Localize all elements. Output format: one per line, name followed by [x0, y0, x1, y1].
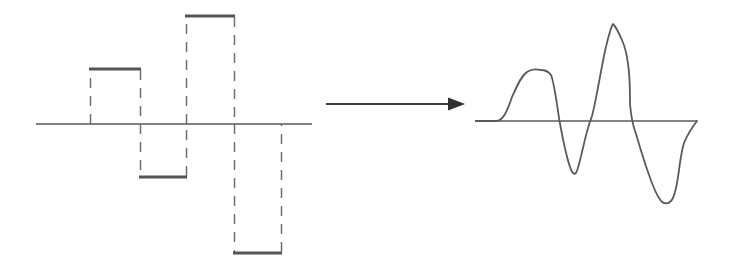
input-square-wave-panel — [36, 16, 312, 253]
output-smooth-waveform-path — [476, 24, 697, 203]
waveform-figure-svg — [0, 0, 747, 272]
figure-root — [0, 0, 747, 272]
output-smooth-wave-panel — [475, 24, 697, 203]
transform-arrow — [326, 98, 465, 111]
transform-arrow-head — [448, 98, 465, 111]
